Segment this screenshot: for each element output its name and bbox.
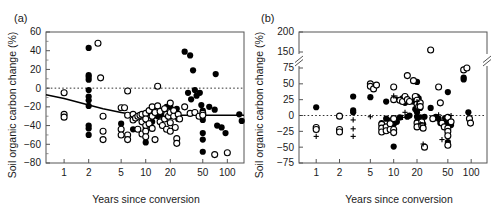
x-tick-label: 5 — [368, 167, 374, 178]
panel-b-plotarea: 2001507550250−25−50−75125102050100 — [277, 26, 491, 178]
panel-a-label: (a) — [14, 12, 27, 24]
data-point-filled — [200, 137, 206, 143]
data-point-open — [152, 137, 158, 143]
data-point-open — [468, 120, 474, 126]
y-tick-label: 0 — [288, 110, 294, 121]
data-point-filled — [350, 109, 356, 115]
data-point-open — [430, 116, 436, 122]
data-point-open — [100, 128, 106, 134]
data-point-open — [337, 129, 343, 135]
y-tick-label: 25 — [283, 94, 295, 105]
x-tick-label: 20 — [411, 167, 423, 178]
x-tick-label: 50 — [442, 167, 454, 178]
panel-a: (a) Soil organic carbon change (%) Years… — [0, 0, 248, 219]
panel-a-ylabel: Soil organic carbon change (%) — [6, 32, 18, 179]
data-point-open — [172, 124, 178, 130]
data-point-open — [428, 47, 434, 53]
data-point-plus — [314, 134, 319, 139]
data-point-filled — [461, 76, 467, 82]
y-tick-label: −75 — [277, 157, 294, 168]
data-point-filled — [367, 94, 373, 100]
data-point-open — [445, 142, 451, 148]
data-point-open — [212, 152, 218, 158]
data-point-open — [125, 88, 131, 94]
panel-b-ylabel: Soil organic carbon change (%) — [253, 32, 265, 179]
data-point-open — [445, 133, 451, 139]
y-tick-label: 50 — [283, 78, 295, 89]
data-point-open — [149, 125, 155, 131]
data-point-filled — [197, 90, 203, 96]
data-point-open — [61, 90, 67, 96]
x-tick-label: 1 — [313, 167, 319, 178]
data-point-open — [464, 65, 470, 71]
data-point-filled — [222, 130, 228, 136]
data-point-open — [224, 150, 230, 156]
data-point-filled — [383, 98, 389, 104]
data-point-filled — [391, 143, 397, 149]
data-point-filled — [239, 118, 245, 124]
data-point-open — [200, 112, 206, 118]
y-tick-label: 150 — [277, 46, 294, 57]
y-tick-label: 60 — [30, 26, 42, 37]
data-point-open — [436, 84, 442, 90]
data-point-filled — [236, 111, 242, 117]
data-point-filled — [313, 104, 319, 110]
x-tick-label: 10 — [140, 167, 152, 178]
data-point-open — [407, 99, 413, 105]
data-point-open — [313, 126, 319, 132]
data-point-filled — [213, 71, 219, 77]
data-point-plus — [351, 117, 356, 122]
panel-b-label: (b) — [261, 12, 274, 24]
data-point-filled — [350, 93, 356, 99]
data-point-filled — [406, 112, 412, 118]
x-tick-label: 50 — [197, 167, 209, 178]
panel-b-xlabel: Years since conversion — [345, 193, 453, 205]
data-point-filled — [198, 102, 204, 108]
y-tick-label: −40 — [24, 120, 41, 131]
panel-a-plotarea: 6040200−20−40−60−80125102050100 — [24, 26, 245, 178]
panel-a-svg: (a) Soil organic carbon change (%) Years… — [0, 0, 248, 219]
data-point-filled — [86, 103, 92, 109]
data-point-filled — [86, 87, 92, 93]
data-point-open — [61, 114, 67, 120]
panel-a-xlabel: Years since conversion — [92, 193, 200, 205]
data-point-filled — [200, 130, 206, 136]
data-point-filled — [428, 105, 434, 111]
panel-b-svg: (b) Soil organic carbon change (%) Years… — [247, 0, 495, 219]
data-point-filled — [185, 90, 191, 96]
data-point-open — [337, 113, 343, 119]
y-tick-label: 0 — [35, 83, 41, 94]
x-tick-label: 100 — [219, 167, 236, 178]
data-point-open — [437, 100, 443, 106]
data-point-filled — [86, 97, 92, 103]
x-tick-label: 20 — [165, 167, 177, 178]
data-point-open — [420, 125, 426, 131]
data-point-open — [98, 75, 104, 81]
data-point-plus — [351, 134, 356, 139]
y-tick-label: 20 — [30, 64, 42, 75]
data-point-open — [95, 40, 101, 46]
data-point-open — [155, 83, 161, 89]
data-point-open — [391, 116, 397, 122]
data-point-plus — [368, 114, 373, 119]
y-tick-label: −60 — [24, 139, 41, 150]
data-point-open — [100, 113, 106, 119]
y-tick-label: 75 — [283, 62, 295, 73]
panel-b: (b) Soil organic carbon change (%) Years… — [247, 0, 495, 219]
y-tick-label: 40 — [30, 45, 42, 56]
x-tick-label: 1 — [61, 167, 67, 178]
data-point-filled — [218, 124, 224, 130]
data-point-filled — [200, 149, 206, 155]
y-tick-label: 200 — [277, 26, 294, 37]
data-point-filled — [187, 52, 193, 58]
data-point-open — [391, 84, 397, 90]
y-tick-label: −80 — [24, 157, 41, 168]
x-tick-label: 100 — [463, 167, 480, 178]
data-point-open — [391, 130, 397, 136]
data-point-plus — [351, 126, 356, 131]
data-point-open — [167, 120, 173, 126]
data-point-open — [167, 100, 173, 106]
data-point-filled — [86, 125, 92, 131]
data-point-filled — [86, 77, 92, 83]
x-tick-label: 5 — [118, 167, 124, 178]
